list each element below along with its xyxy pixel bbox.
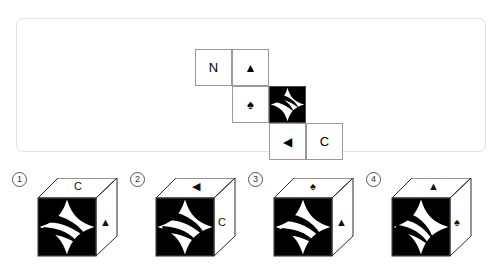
cube-top-label-3: ♠	[310, 181, 316, 192]
cube-diagram-4: ▲ ♠	[388, 178, 472, 260]
spade-icon: ♠	[247, 98, 254, 111]
cube-right-label-1: ▲	[100, 217, 111, 228]
letter-c: C	[320, 135, 329, 148]
option-number-3: 3	[248, 172, 263, 187]
option-number-2: 2	[130, 172, 145, 187]
option-number-4: 4	[366, 172, 381, 187]
pinwheel-star-pattern-icon	[393, 199, 449, 255]
cube-right-label-4: ♠	[454, 217, 460, 228]
pinwheel-star-pattern-icon	[270, 87, 305, 122]
answer-option-3[interactable]: 3 ♠ ▲	[244, 168, 366, 266]
cube-right-label-2: C	[218, 217, 226, 228]
answer-option-2[interactable]: 2 ◀ C	[126, 168, 248, 266]
net-cell-letter-c: C	[306, 123, 343, 160]
cutoff-header-text	[58, 0, 63, 5]
cutoff-header-strip	[0, 0, 502, 9]
option-number-1: 1	[12, 172, 27, 187]
pinwheel-star-pattern-icon	[39, 199, 95, 255]
triangle-up-icon: ▲	[245, 62, 257, 74]
net-cell-pinwheel-pattern	[269, 86, 306, 123]
answer-option-4[interactable]: 4 ▲ ♠	[362, 168, 484, 266]
pinwheel-star-pattern-icon	[157, 199, 213, 255]
net-cell-spade: ♠	[232, 86, 269, 123]
cube-diagram-3: ♠ ▲	[270, 178, 354, 260]
net-cell-letter-n: N	[195, 49, 232, 86]
answer-options: 1 C ▲ 2	[0, 168, 502, 266]
net-cell-triangle-up: ▲	[232, 49, 269, 86]
cube-front-face-4	[392, 198, 450, 256]
letter-n: N	[209, 61, 218, 74]
cube-net-panel: N ▲ ♠ ◀ C	[16, 18, 486, 152]
cube-top-label-1: C	[74, 181, 82, 192]
net-cell-triangle-left: ◀	[269, 123, 306, 160]
cube-diagram-2: ◀ C	[152, 178, 236, 260]
cube-top-label-2: ◀	[192, 181, 200, 192]
cube-net: N ▲ ♠ ◀ C	[195, 49, 345, 161]
cube-front-face-2	[156, 198, 214, 256]
cube-top-label-4: ▲	[428, 181, 439, 192]
answer-option-1[interactable]: 1 C ▲	[8, 168, 130, 266]
triangle-left-icon: ◀	[283, 136, 292, 148]
pinwheel-star-pattern-icon	[275, 199, 331, 255]
cube-front-face-3	[274, 198, 332, 256]
cube-right-label-3: ▲	[336, 217, 347, 228]
cube-front-face-1	[38, 198, 96, 256]
cube-diagram-1: C ▲	[34, 178, 118, 260]
